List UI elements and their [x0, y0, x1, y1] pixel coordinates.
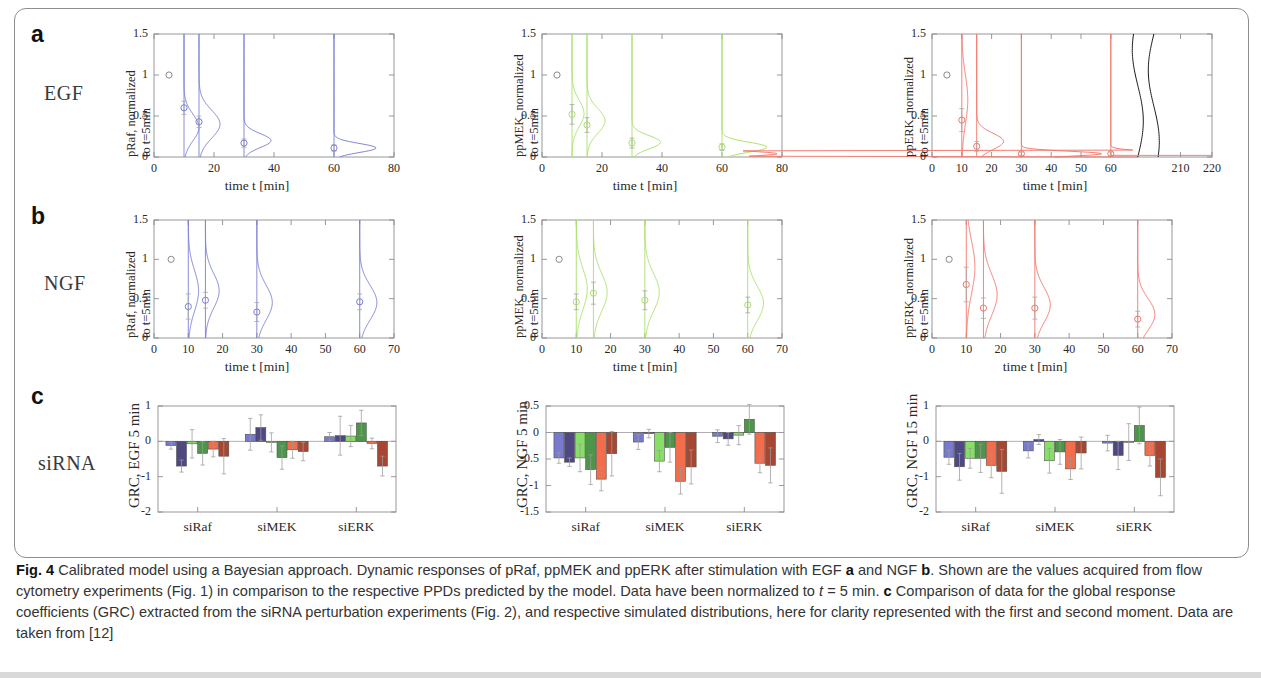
- ytick-label: 1.5: [500, 212, 536, 227]
- plot-egf-ppmek: 00.511.5020406080ppMEK, normalizedto t=5…: [500, 26, 790, 201]
- xtick-label: 40: [663, 342, 695, 357]
- xtick-label: 50: [1087, 342, 1119, 357]
- xtick-label: 40: [258, 161, 290, 176]
- panel-letter-a: a: [31, 21, 44, 48]
- group-tick-label-siraf: siRaf: [153, 519, 243, 535]
- plot-egf-praf: 00.511.5020406080pRaf, normalizedto t=5m…: [112, 26, 402, 201]
- xtick-label: 50: [309, 342, 341, 357]
- ytick-label: 1.5: [112, 26, 148, 41]
- xtick-label: 40: [275, 342, 307, 357]
- y-axis-label-line2: to t=5min: [917, 289, 932, 338]
- xtick-label: 0: [526, 342, 558, 357]
- group-tick-label-simek: siMEK: [232, 519, 322, 535]
- xtick-label: 0: [526, 161, 558, 176]
- xtick-label: 30: [629, 342, 661, 357]
- caption-text-1: Calibrated model using a Bayesian approa…: [54, 562, 846, 578]
- ytick-label: 1.5: [500, 26, 536, 41]
- xtick-label: 60: [1095, 161, 1127, 176]
- x-axis-label: time t [min]: [500, 178, 790, 194]
- y-axis-label-line1: ppMEK, normalized: [512, 235, 527, 338]
- ytick-label: 1.5: [890, 26, 926, 41]
- xtick-label: 20: [976, 161, 1008, 176]
- xtick-label: 30: [241, 342, 273, 357]
- xtick-label: 40: [646, 161, 678, 176]
- group-tick-label-sierk: siERK: [699, 519, 789, 535]
- group-tick-label-sierk: siERK: [311, 519, 401, 535]
- xtick-label: 70: [1156, 342, 1188, 357]
- plot-ngf-pperk: 00.511.5010203040506070ppERK, normalized…: [890, 212, 1180, 382]
- x-axis-label: time t [min]: [890, 178, 1220, 194]
- xtick-label: 0: [916, 161, 948, 176]
- y-axis-label-line1: pRaf, normalized: [124, 70, 139, 157]
- group-tick-label-simek: siMEK: [620, 519, 710, 535]
- caption-label: Fig. 4: [16, 562, 54, 578]
- caption-text-2: and NGF: [854, 562, 921, 578]
- xtick-label: 50: [1065, 161, 1097, 176]
- xtick-label: 210: [1165, 161, 1197, 176]
- group-tick-label-simek: siMEK: [1010, 519, 1100, 535]
- plot-egf-pperk: 00.511.50102030405060210220ppERK, normal…: [890, 26, 1220, 201]
- x-axis-label: time t [min]: [500, 359, 790, 375]
- caption-bold-a: a: [846, 562, 854, 578]
- xtick-label: 220: [1196, 161, 1228, 176]
- y-axis-label-line2: to t=5min: [139, 289, 154, 338]
- y-axis-label: GRC, NGF 15 min: [904, 394, 921, 508]
- plot-grc-egf-5min: -2-101siRafsiMEKsiERKGRC, EGF 5 min: [112, 398, 402, 548]
- ytick-label: 1.5: [112, 212, 148, 227]
- caption-bold-b: b: [921, 562, 930, 578]
- xtick-label: 60: [1122, 342, 1154, 357]
- xtick-label: 70: [766, 342, 798, 357]
- plot-ngf-praf: 00.511.5010203040506070pRaf, normalizedt…: [112, 212, 402, 382]
- xtick-label: 20: [207, 342, 239, 357]
- y-axis-label-line1: pRaf, normalized: [124, 251, 139, 338]
- xtick-label: 0: [138, 161, 170, 176]
- ytick-label: 1.5: [890, 212, 926, 227]
- xtick-label: 40: [1035, 161, 1067, 176]
- row-label-ngf: NGF: [44, 272, 86, 295]
- xtick-label: 10: [172, 342, 204, 357]
- figure-caption: Fig. 4 Calibrated model using a Bayesian…: [16, 560, 1248, 645]
- group-tick-label-sierk: siERK: [1089, 519, 1179, 535]
- xtick-label: 30: [1005, 161, 1037, 176]
- row-label-sirna: siRNA: [38, 452, 96, 475]
- xtick-label: 60: [706, 161, 738, 176]
- xtick-label: 20: [985, 342, 1017, 357]
- caption-bold-c: c: [884, 583, 892, 599]
- row-label-egf: EGF: [44, 82, 83, 105]
- xtick-label: 80: [378, 161, 410, 176]
- panel-letter-b: b: [31, 203, 45, 230]
- page-bottom-bar: [0, 672, 1261, 678]
- xtick-label: 50: [697, 342, 729, 357]
- y-axis-label-line2: to t=5min: [139, 108, 154, 157]
- xtick-label: 0: [138, 342, 170, 357]
- y-axis-label-line1: ppMEK, normalized: [512, 54, 527, 157]
- x-axis-label: time t [min]: [890, 359, 1180, 375]
- plot-grc-ngf-15min: -2-101siRafsiMEKsiERKGRC, NGF 15 min: [890, 398, 1180, 548]
- xtick-label: 60: [732, 342, 764, 357]
- caption-text-4: = 5 min.: [823, 583, 883, 599]
- xtick-label: 20: [198, 161, 230, 176]
- x-axis-label: time t [min]: [112, 178, 402, 194]
- xtick-label: 40: [1053, 342, 1085, 357]
- y-axis-label-line1: ppERK, normalized: [902, 238, 917, 338]
- group-tick-label-siraf: siRaf: [541, 519, 631, 535]
- y-axis-label-line1: ppERK, normalized: [902, 57, 917, 157]
- xtick-label: 70: [378, 342, 410, 357]
- xtick-label: 10: [560, 342, 592, 357]
- y-axis-label-line2: to t=5min: [917, 108, 932, 157]
- xtick-label: 80: [766, 161, 798, 176]
- xtick-label: 10: [946, 161, 978, 176]
- panel-letter-c: c: [31, 383, 44, 410]
- xtick-label: 0: [916, 342, 948, 357]
- xtick-label: 20: [586, 161, 618, 176]
- figure-page: a b c EGF NGF siRNA 00.511.5020406080pRa…: [0, 0, 1261, 678]
- xtick-label: 10: [950, 342, 982, 357]
- x-axis-label: time t [min]: [112, 359, 402, 375]
- y-axis-label-line2: to t=5min: [527, 108, 542, 157]
- y-axis-label-line2: to t=5min: [527, 289, 542, 338]
- xtick-label: 60: [344, 342, 376, 357]
- y-axis-label: GRC, EGF 5 min: [126, 403, 143, 508]
- xtick-label: 60: [318, 161, 350, 176]
- xtick-label: 20: [595, 342, 627, 357]
- group-tick-label-siraf: siRaf: [931, 519, 1021, 535]
